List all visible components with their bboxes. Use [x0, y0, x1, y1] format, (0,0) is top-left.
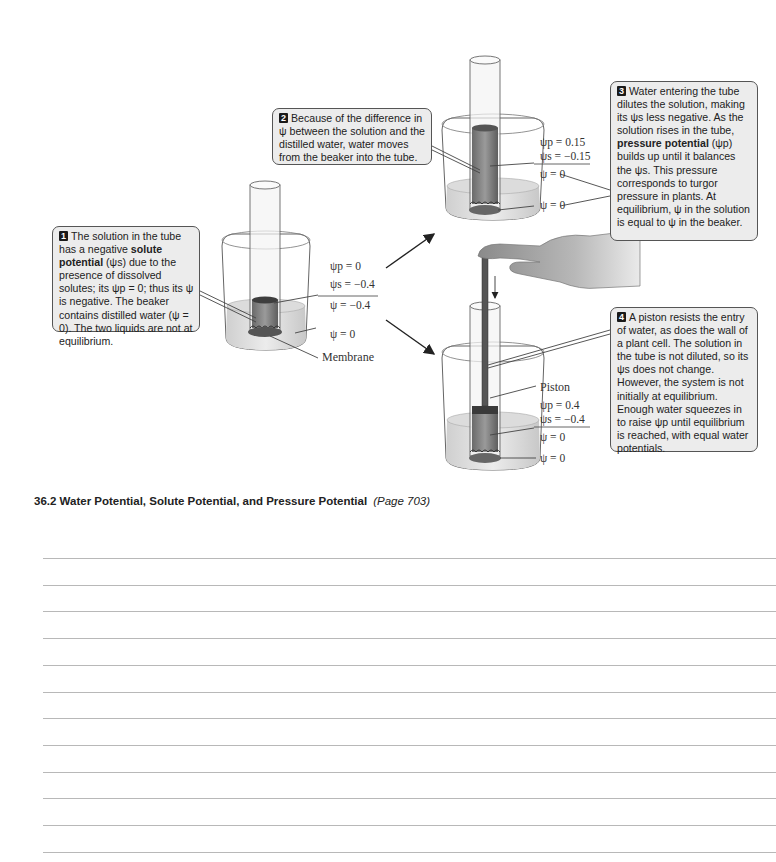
open-tube-psi-p: ψp = 0.15 — [540, 136, 585, 149]
note-line — [43, 852, 776, 853]
initial-psi-s: ψs = −0.4 — [330, 278, 375, 291]
note-line — [43, 558, 776, 559]
callout-step-2: 2Because of the difference in ψ between … — [272, 108, 432, 165]
step-number-badge: 1 — [59, 231, 68, 241]
membrane-label: Membrane — [322, 350, 374, 365]
open-tube-psi: ψ = 0 — [540, 168, 565, 181]
note-line — [43, 745, 776, 746]
callout-step-3: 3Water entering the tube dilutes the sol… — [610, 81, 758, 241]
step-number-badge: 4 — [617, 312, 626, 322]
note-line — [43, 718, 776, 719]
piston-psi-s: ψs = −0.4 — [540, 413, 585, 426]
open-tube-beaker-psi: ψ = 0 — [540, 199, 565, 212]
step-number-badge: 2 — [279, 113, 288, 123]
initial-psi-p: ψp = 0 — [330, 260, 361, 273]
note-line — [43, 692, 776, 693]
initial-psi: ψ = −0.4 — [330, 299, 370, 312]
page-reference: (Page 703) — [373, 495, 430, 507]
note-line — [43, 638, 776, 639]
note-line — [43, 611, 776, 612]
piston-label: Piston — [540, 380, 570, 395]
callout-step-4: 4A piston resists the entry of water, as… — [610, 307, 758, 452]
initial-beaker — [222, 181, 310, 350]
piston-psi: ψ = 0 — [540, 431, 565, 444]
note-line — [43, 798, 776, 799]
arrow-to-open-tube — [386, 234, 434, 268]
callout-step-1: 1The solution in the tube has a negative… — [52, 226, 200, 332]
note-line — [43, 772, 776, 773]
step-number-badge: 3 — [617, 86, 626, 96]
note-line — [43, 665, 776, 666]
piston-psi-p: ψp = 0.4 — [540, 399, 580, 412]
open-tube-beaker — [442, 56, 544, 220]
section-title: 36.2 Water Potential, Solute Potential, … — [34, 495, 367, 507]
note-line — [43, 825, 776, 826]
note-line — [43, 585, 776, 586]
term-pressure-potential: pressure potential — [617, 137, 709, 149]
initial-beaker-psi: ψ = 0 — [330, 328, 355, 341]
open-tube-psi-s: ψs = −0.15 — [540, 150, 591, 163]
arrow-to-piston — [386, 320, 434, 354]
piston-beaker-psi: ψ = 0 — [540, 452, 565, 465]
section-heading: 36.2 Water Potential, Solute Potential, … — [34, 495, 430, 507]
